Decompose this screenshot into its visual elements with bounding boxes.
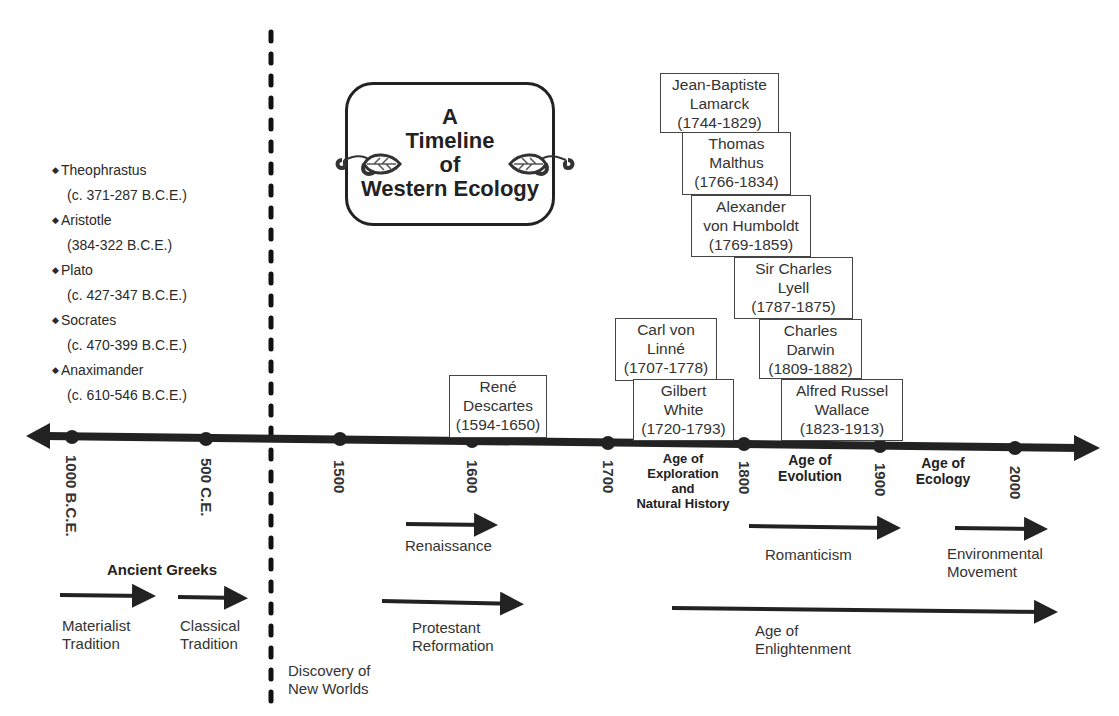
ancient-greeks-heading: Ancient Greeks bbox=[107, 561, 217, 578]
person-name: Carl von bbox=[616, 320, 716, 339]
era-line: and bbox=[628, 481, 738, 496]
person-name: Linné bbox=[616, 339, 716, 358]
philosopher-name: Anaximander bbox=[52, 358, 187, 383]
person-box-wallace: Alfred Russel Wallace (1823-1913) bbox=[781, 379, 903, 441]
philosopher-name: Theophrastus bbox=[52, 158, 187, 183]
person-name: Malthus bbox=[683, 153, 790, 172]
person-dates: (1594-1650) bbox=[450, 415, 546, 434]
movement-line: Tradition bbox=[180, 635, 240, 653]
title-line-1: A bbox=[348, 105, 552, 129]
arrow-environmental bbox=[955, 528, 1040, 529]
person-dates: (1720-1793) bbox=[634, 419, 733, 438]
movement-label-romanticism: Romanticism bbox=[765, 546, 852, 564]
person-name: Alexander bbox=[692, 197, 810, 216]
era-line: Age of bbox=[628, 451, 738, 466]
philosopher-name: Plato bbox=[52, 258, 187, 283]
movement-label-protestant: Protestant Reformation bbox=[412, 619, 494, 655]
movement-label-environmental: Environmental Movement bbox=[947, 545, 1043, 581]
arrow-enlightenment bbox=[672, 608, 1050, 612]
axis-left-arrowhead bbox=[26, 423, 50, 449]
person-name: Charles bbox=[760, 321, 861, 340]
person-name: Lyell bbox=[735, 278, 852, 297]
person-name: Thomas bbox=[683, 134, 790, 153]
person-name: Darwin bbox=[760, 340, 861, 359]
era-line: Age of bbox=[903, 455, 983, 471]
tick-label-1900: 1900 bbox=[872, 463, 889, 496]
axis-right-arrowhead bbox=[1074, 435, 1100, 461]
tick-label-2000: 2000 bbox=[1007, 466, 1024, 499]
tick-label-1600: 1600 bbox=[464, 460, 481, 493]
movement-line: Enlightenment bbox=[755, 640, 851, 658]
person-name: Lamarck bbox=[661, 94, 778, 113]
era-line: Age of bbox=[760, 452, 860, 468]
movement-line: Tradition bbox=[62, 635, 130, 653]
era-line: Evolution bbox=[760, 468, 860, 484]
arrow-romanticism bbox=[749, 526, 893, 528]
person-name: Alfred Russel bbox=[782, 381, 902, 400]
movement-line: Renaissance bbox=[405, 537, 492, 555]
arrow-renaissance bbox=[406, 524, 490, 525]
person-dates: (1769-1859) bbox=[692, 235, 810, 254]
era-label-exploration: Age of Exploration and Natural History bbox=[628, 451, 738, 511]
leaf-left-icon bbox=[334, 146, 404, 180]
philosopher-dates: (c. 427-347 B.C.E.) bbox=[52, 283, 187, 308]
person-name: Descartes bbox=[450, 396, 546, 415]
philosopher-dates: (384-322 B.C.E.) bbox=[52, 233, 187, 258]
era-line: Natural History bbox=[628, 496, 738, 511]
arrow-protestant bbox=[382, 601, 516, 604]
person-name: Gilbert bbox=[634, 381, 733, 400]
person-dates: (1707-1778) bbox=[616, 358, 716, 377]
person-name: René bbox=[450, 377, 546, 396]
person-box-humboldt: Alexander von Humboldt (1769-1859) bbox=[691, 195, 811, 257]
person-dates: (1787-1875) bbox=[735, 297, 852, 316]
tick-dot-1800 bbox=[737, 437, 751, 451]
arrow-classical bbox=[178, 597, 240, 598]
person-box-lyell: Sir Charles Lyell (1787-1875) bbox=[734, 257, 853, 319]
person-name: Sir Charles bbox=[735, 259, 852, 278]
tick-label-500ce: 500 C.E. bbox=[198, 458, 215, 516]
tick-dot-1700 bbox=[601, 436, 615, 450]
greek-philosophers-list: Theophrastus (c. 371-287 B.C.E.) Aristot… bbox=[52, 158, 187, 408]
philosopher-dates: (c. 371-287 B.C.E.) bbox=[52, 183, 187, 208]
movement-label-materialist: Materialist Tradition bbox=[62, 617, 130, 653]
person-dates: (1744-1829) bbox=[661, 113, 778, 132]
arrow-materialist bbox=[60, 595, 148, 596]
movement-line: Materialist bbox=[62, 617, 130, 635]
movement-line: Reformation bbox=[412, 637, 494, 655]
era-label-ecology: Age of Ecology bbox=[903, 455, 983, 487]
era-line: Ecology bbox=[903, 471, 983, 487]
philosopher-name: Aristotle bbox=[52, 208, 187, 233]
person-box-descartes: René Descartes (1594-1650) bbox=[449, 375, 547, 438]
movement-label-discovery: Discovery of New Worlds bbox=[288, 662, 371, 698]
tick-label-1700: 1700 bbox=[600, 460, 617, 493]
philosopher-dates: (c. 470-399 B.C.E.) bbox=[52, 333, 187, 358]
tick-dot-1500 bbox=[333, 432, 347, 446]
era-label-evolution: Age of Evolution bbox=[760, 452, 860, 484]
tick-dot-500ce bbox=[199, 432, 213, 446]
tick-label-1500: 1500 bbox=[331, 460, 348, 493]
person-dates: (1809-1882) bbox=[760, 359, 861, 378]
person-name: White bbox=[634, 400, 733, 419]
movement-line: Romanticism bbox=[765, 546, 852, 564]
person-box-darwin: Charles Darwin (1809-1882) bbox=[759, 319, 862, 379]
movement-line: Protestant bbox=[412, 619, 494, 637]
tick-label-1000bce: 1000 B.C.E. bbox=[63, 455, 80, 537]
person-name: von Humboldt bbox=[692, 216, 810, 235]
person-dates: (1766-1834) bbox=[683, 172, 790, 191]
philosopher-name: Socrates bbox=[52, 308, 187, 333]
leaf-right-icon bbox=[506, 146, 576, 180]
tick-label-1800: 1800 bbox=[736, 461, 753, 494]
movement-label-classical: Classical Tradition bbox=[180, 617, 240, 653]
title-line-4: Western Ecology bbox=[348, 177, 552, 201]
person-box-white: Gilbert White (1720-1793) bbox=[633, 379, 734, 441]
person-name: Wallace bbox=[782, 400, 902, 419]
movement-line: Movement bbox=[947, 563, 1043, 581]
movement-line: Discovery of bbox=[288, 662, 371, 680]
tick-dot-1900 bbox=[873, 439, 887, 453]
person-box-linne: Carl von Linné (1707-1778) bbox=[615, 318, 717, 381]
era-line: Exploration bbox=[628, 466, 738, 481]
movement-label-enlightenment: Age of Enlightenment bbox=[755, 622, 851, 658]
movement-line: Environmental bbox=[947, 545, 1043, 563]
movement-line: Age of bbox=[755, 622, 851, 640]
person-box-malthus: Thomas Malthus (1766-1834) bbox=[682, 132, 791, 195]
